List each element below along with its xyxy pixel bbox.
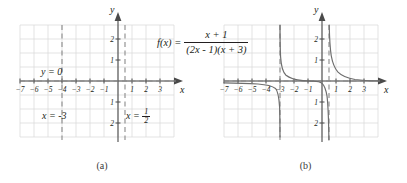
svg-text:−7: −7 — [16, 85, 25, 94]
svg-text:2: 2 — [144, 85, 148, 94]
svg-text:1: 1 — [110, 56, 114, 65]
panel-a-x-axis-label: x — [180, 84, 184, 95]
svg-text:−2: −2 — [290, 85, 299, 94]
x-tick-labels: −7 −6 −5 −4 −3 −2 −1 1 2 3 — [16, 85, 163, 94]
function-denominator: (2x - 1)(x + 3) — [184, 42, 248, 55]
function-name: f(x) = — [157, 37, 181, 48]
y-axis-arrow — [319, 12, 326, 21]
svg-text:2: 2 — [110, 119, 114, 128]
svg-text:−6: −6 — [234, 85, 243, 94]
svg-text:2: 2 — [314, 119, 318, 128]
svg-text:3: 3 — [157, 85, 162, 94]
horizontal-asymptote-label: y = 0 — [41, 66, 62, 77]
svg-text:−4: −4 — [58, 85, 67, 94]
svg-text:2: 2 — [314, 35, 318, 44]
rational-function-figure: −7 −6 −5 −4 −3 −2 −1 1 2 3 2 1 1 2 x y y… — [0, 0, 407, 183]
svg-text:1: 1 — [130, 85, 134, 94]
svg-text:−3: −3 — [276, 85, 285, 94]
panel-b-y-axis-label: y — [314, 4, 318, 15]
panel-a-caption: (a) — [0, 160, 204, 171]
panel-a-y-axis-label: y — [110, 4, 114, 15]
vertical-asymptote-right-label: x = 1 2 — [126, 108, 150, 125]
svg-text:1: 1 — [334, 85, 338, 94]
function-formula: f(x) = x + 1 (2x - 1)(x + 3) — [157, 22, 297, 62]
svg-text:−6: −6 — [30, 85, 39, 94]
svg-text:−4: −4 — [262, 85, 271, 94]
svg-text:−1: −1 — [304, 85, 313, 94]
svg-text:1: 1 — [110, 98, 114, 107]
svg-text:3: 3 — [361, 85, 366, 94]
svg-text:2: 2 — [348, 85, 352, 94]
svg-text:2: 2 — [110, 35, 114, 44]
svg-text:−5: −5 — [44, 85, 53, 94]
svg-text:−2: −2 — [86, 85, 95, 94]
svg-text:−1: −1 — [100, 85, 109, 94]
function-fraction: x + 1 (2x - 1)(x + 3) — [184, 29, 248, 54]
vertical-asymptote-right-label-text: x = — [126, 110, 140, 121]
vertical-asymptote-left-label: x = -3 — [42, 110, 67, 121]
function-numerator: x + 1 — [201, 29, 231, 41]
svg-text:−5: −5 — [248, 85, 257, 94]
svg-text:1: 1 — [314, 98, 318, 107]
y-axis-arrow — [115, 12, 122, 21]
svg-text:−3: −3 — [72, 85, 81, 94]
panel-b-x-axis-label: x — [384, 84, 388, 95]
one-half-fraction: 1 2 — [142, 108, 150, 125]
x-tick-labels: −7 −6 −5 −4 −3 −2 −1 1 2 3 — [220, 85, 367, 94]
svg-text:1: 1 — [314, 56, 318, 65]
svg-text:−7: −7 — [220, 85, 229, 94]
panel-b-caption: (b) — [204, 160, 407, 171]
